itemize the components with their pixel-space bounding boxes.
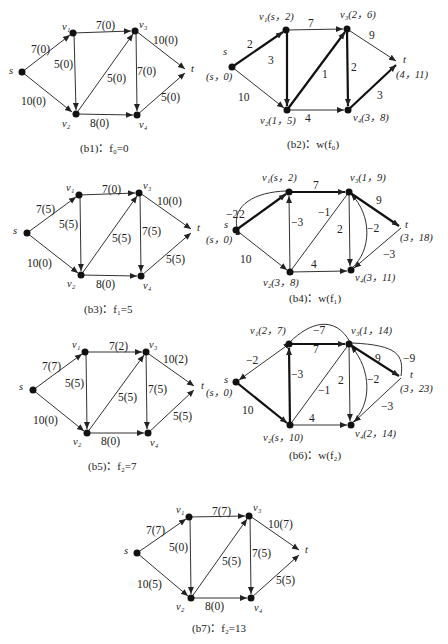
edge-label-v3-v4: 2 <box>351 61 357 73</box>
edge-label-v3-v4: 7(5) <box>148 383 167 396</box>
edge-label-v3-t: 9 <box>369 29 375 41</box>
edge-v1-v2 <box>190 517 191 594</box>
edge-label-v1-v2: 3 <box>268 54 274 66</box>
node-v3 <box>344 26 351 33</box>
node-label-s-mark: (s，0) <box>206 387 233 399</box>
edge-label-v1-s: −2 <box>226 208 238 220</box>
node-v2 <box>287 422 294 429</box>
edge-label-s-v1: 2 <box>239 208 245 220</box>
edge-v3-v4 <box>347 29 348 106</box>
edge-label-v3-v4: 2 <box>338 374 344 386</box>
node-label-v1: v₁(s，2) <box>262 172 297 184</box>
edge-s-v1 <box>232 32 283 67</box>
node-v1 <box>286 341 293 348</box>
node-label-s-mark: (s，0) <box>206 71 233 83</box>
edge-label-v2-v4: 8(0) <box>205 600 224 613</box>
edge-label-s-v2: 10 <box>238 91 250 103</box>
edge-label-v4-t: 5(5) <box>173 410 192 423</box>
edge-label-v4-t: 5(5) <box>166 253 185 266</box>
edge-label-v3-t: 10(0) <box>153 34 178 47</box>
edge-v3-t <box>349 344 399 376</box>
edge-label-v1-v2: 5(5) <box>59 218 78 231</box>
node-label-t-mark: (4，11) <box>396 69 428 81</box>
node-v4 <box>145 430 152 437</box>
node-label-v4: v₄ <box>254 602 263 613</box>
node-label-s: s <box>9 65 13 76</box>
edge-label-v1-v3: 7(7) <box>212 505 231 518</box>
edge-v3-v4 <box>349 344 350 421</box>
node-label-v1: v₁ <box>62 21 70 32</box>
edge-v2-v4 <box>81 275 137 276</box>
edge-label-v2-v3: 5(0) <box>107 72 126 85</box>
node-v4 <box>348 267 355 274</box>
diagram-b6: s (s，0) v₁(2，7) v₃(1，14) t (3，23) v₂(s，1… <box>206 324 433 462</box>
edge-label-v1-v3: 7(2) <box>109 340 128 353</box>
edge-label-v1-v3: 7(0) <box>102 183 121 196</box>
node-v1 <box>286 189 293 196</box>
edge-label-v1-s: −2 <box>246 354 258 366</box>
edge-label-v3-v4: 7(5) <box>252 547 271 560</box>
edge-label-v2-v4: 4 <box>305 112 311 124</box>
node-label-v4: v₄(3，8) <box>353 112 389 124</box>
edge-label-v4-t: 3 <box>377 89 383 101</box>
node-label-t-mark: (3，18) <box>400 232 433 244</box>
edge-label-v4-v3: −2 <box>367 222 379 234</box>
node-v3 <box>136 190 143 197</box>
edge-label-t-v4: −3 <box>381 400 393 412</box>
diagram-b7: s v₁ v₃ t v₂ v₄ 7(7) 10(5) 7(7) 5(0) 5(5… <box>124 502 309 635</box>
node-label-t: t <box>191 63 195 74</box>
edge-label-v3-t: 10(0) <box>157 195 182 208</box>
edge-label-v2-v4: 8(0) <box>90 117 109 130</box>
diagram-b3: s v₁ v₃ t v₂ v₄ 7(5) 10(0) 7(0) 5(5) 5(5… <box>13 180 201 316</box>
edge-v2-v1 <box>289 348 290 425</box>
edge-v4-v3 <box>351 194 367 268</box>
node-label-t: t <box>305 544 309 555</box>
edge-label-v2-v1: −3 <box>291 368 303 380</box>
edge-label-v3-t: 10(7) <box>268 518 293 531</box>
edge-label-t-v4: −3 <box>383 248 395 260</box>
edge-label-v3-v2: −1 <box>318 384 330 396</box>
max-flow-min-cost-figure: s v₁ v₃ t v₂ v₄ 7(0) 10(0) 7(0) 5(0) 5(0… <box>0 0 448 644</box>
node-label-v4: v₄(2，14) <box>355 428 397 440</box>
edge-v2-v4 <box>290 271 347 272</box>
node-s <box>19 69 26 76</box>
node-label-v2: v₂ <box>176 601 185 612</box>
node-v3 <box>346 341 353 348</box>
edge-label-v3-v4: 7(0) <box>137 65 156 78</box>
node-v4 <box>345 107 352 114</box>
edge-label-t-v3: −9 <box>403 352 415 364</box>
edge-label-s-v2: 10 <box>240 253 252 265</box>
edge-label-v2-v3: 5(5) <box>112 232 131 245</box>
edge-v1-v3 <box>73 31 131 33</box>
edge-label-v3-v4: 2 <box>337 223 343 235</box>
edge-label-v3-t: 10(2) <box>163 353 188 366</box>
node-v1 <box>76 192 83 199</box>
node-v3 <box>246 513 253 520</box>
edge-label-v1-v3: 7(0) <box>96 19 115 32</box>
node-s <box>233 379 240 386</box>
node-v2 <box>84 430 91 437</box>
node-label-s-mark: (s，0) <box>206 234 233 246</box>
edge-label-s-v2: 10(5) <box>137 578 162 591</box>
node-label-v4: v₄ <box>139 119 148 130</box>
node-v3 <box>132 28 139 35</box>
node-label-s: s <box>223 46 227 57</box>
edge-label-s-v1: 2 <box>247 38 253 50</box>
node-s <box>229 64 236 71</box>
edge-label-v2-v3: 1 <box>322 68 328 80</box>
edge-label-v2-v4: 8(0) <box>96 278 115 291</box>
edge-label-s-v1: 7(7) <box>42 360 61 373</box>
node-v1 <box>82 349 89 356</box>
node-label-v3: v₃ <box>149 339 158 350</box>
edge-label-v1-v3: 7 <box>313 179 319 191</box>
edge-v3-v4 <box>146 352 147 429</box>
edge-label-v3-v4: 7(5) <box>142 225 161 238</box>
node-label-s: s <box>13 225 17 236</box>
caption-b6: (b6)：w(f₂) <box>289 449 341 462</box>
edge-label-s-v1: 7(0) <box>31 43 50 56</box>
node-label-s: s <box>224 219 228 230</box>
diagram-b1: s v₁ v₃ t v₂ v₄ 7(0) 10(0) 7(0) 5(0) 5(0… <box>9 19 195 155</box>
node-s <box>134 550 141 557</box>
edge-label-v2-v1: −3 <box>291 216 303 228</box>
diagram-b4: s (s，0) v₁(s，2) v₃(1，9) t (3，18) v₂(3，8)… <box>206 172 433 305</box>
